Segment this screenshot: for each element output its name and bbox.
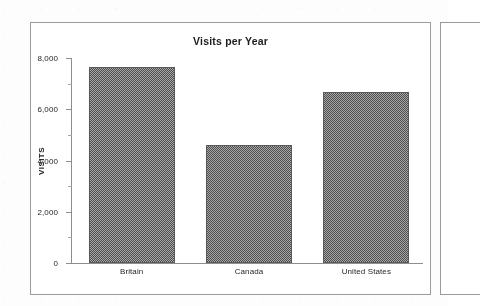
bar-britain [89, 67, 175, 263]
y-tick-major: 2,000 [66, 212, 72, 213]
x-axis-line [71, 263, 423, 264]
next-page-panel [440, 22, 480, 295]
y-tick-minor [68, 135, 72, 136]
y-tick-label: 0 [53, 259, 58, 268]
chart-panel: Visits per Year VISITS 02,0004,0006,0008… [30, 22, 431, 295]
x-axis-label-britain: Britain [120, 267, 143, 276]
y-tick-minor [68, 186, 72, 187]
y-tick-label: 2,000 [37, 207, 58, 216]
y-tick-major: 4,000 [66, 161, 72, 162]
y-tick-major: 8,000 [66, 58, 72, 59]
y-tick-major: 6,000 [66, 109, 72, 110]
bar-canada [206, 145, 292, 263]
plot-area: VISITS 02,0004,0006,0008,000 BritainCana… [71, 58, 423, 263]
y-tick-minor [68, 84, 72, 85]
y-tick-minor [68, 237, 72, 238]
chart-title: Visits per Year [31, 35, 430, 47]
y-tick-label: 8,000 [37, 54, 58, 63]
bar-united-states [323, 92, 409, 263]
y-tick-label: 6,000 [37, 105, 58, 114]
x-axis-label-united-states: United States [342, 267, 391, 276]
x-axis-label-canada: Canada [235, 267, 264, 276]
y-tick-label: 4,000 [37, 156, 58, 165]
y-tick-major: 0 [66, 263, 72, 264]
